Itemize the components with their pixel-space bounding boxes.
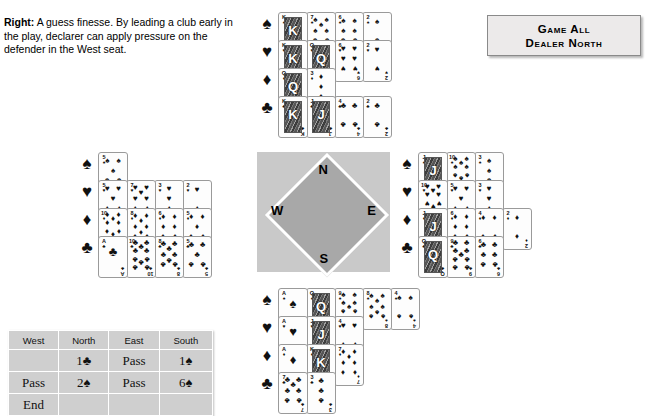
card-pip: ♠ [287, 300, 300, 308]
card-pip: ♣ [339, 102, 347, 110]
dealer-label: Dealer North [526, 36, 603, 50]
card-pip: ♣ [373, 120, 381, 128]
card-pip: ♣ [283, 387, 291, 395]
card-pip: ♦ [317, 73, 325, 81]
card-pip: ♦ [171, 213, 179, 221]
card-pip: ♣ [339, 120, 347, 128]
card-pip: ♥ [351, 322, 359, 330]
spade-suit-icon: ♠ [258, 290, 276, 312]
card-pip: ♦ [103, 219, 111, 227]
playing-card: 9♣9♣♣♣♣♣♣♣♣♣♣ [446, 236, 476, 278]
card-pips: ♣♣♣ [307, 373, 335, 413]
bidding-cell [109, 394, 159, 416]
card-pip: ♣ [143, 247, 151, 255]
card-pip: ♣ [283, 396, 291, 404]
card-pips: ♣♣♣♣♣♣♣♣♣♣ [127, 237, 155, 277]
card-pips: ♦♦ [503, 209, 531, 249]
card-pip: ♣ [463, 263, 471, 271]
bidding-row: End [9, 394, 213, 416]
playing-card: 2♣2♣♣♣ [362, 96, 392, 138]
vulnerability-label: Game All [538, 22, 590, 36]
bidding-row: 1♣Pass1♠ [9, 350, 213, 372]
diamond-suit-icon: ♦ [78, 210, 96, 232]
card-pip: ♠ [311, 27, 319, 35]
court-card-rank: J [419, 219, 447, 234]
card-pip: ♠ [395, 312, 403, 320]
card-pips: ♣♣♣♣♣♣♣♣♣ [447, 237, 475, 277]
card-pip: ♥ [131, 195, 139, 203]
card-pip: ♦ [317, 83, 325, 91]
bidding-cell [9, 350, 59, 372]
card-pip: ♣ [317, 377, 325, 385]
card-pip: ♥ [339, 64, 347, 72]
card-pip: ♣ [317, 387, 325, 395]
card-pip: ♠ [351, 17, 359, 25]
playing-card: 3♣3♣♣♣♣ [306, 372, 336, 414]
bidding-cell: Pass [109, 350, 159, 372]
diamond-suit-icon: ♦ [258, 346, 276, 368]
card-pip: ♥ [373, 64, 381, 72]
card-pips: ♣♣♣♣♣♣♣ [279, 373, 307, 413]
card-pip: ♦ [339, 368, 347, 376]
card-pip: ♥ [435, 191, 443, 199]
card-pip: ♠ [109, 167, 117, 175]
playing-card: 7♦7♦♦♦♦♦♦♦♦ [334, 344, 364, 386]
card-pip: ♥ [339, 55, 347, 63]
card-pip: ♠ [407, 294, 415, 302]
card-pips: ♣♣♣♣ [335, 97, 363, 137]
card-pip: ♣ [491, 251, 499, 259]
compass-diagram: N S W E [257, 152, 390, 272]
card-pip: ♣ [199, 241, 207, 249]
card-pip: ♥ [373, 46, 381, 54]
card-pips: ♥♥ [363, 41, 391, 81]
card-pip: ♦ [171, 223, 179, 231]
card-pip: ♣ [373, 102, 381, 110]
card-pip: ♠ [379, 312, 387, 320]
caption-lead: Right: [4, 16, 34, 28]
card-pip: ♠ [103, 157, 111, 165]
card-pip: ♦ [451, 223, 459, 231]
card-pip: ♣ [295, 387, 303, 395]
playing-card: A♣A♣♣ [98, 236, 128, 278]
vulnerability-dealer-box: Game All Dealer North [487, 15, 641, 56]
card-pip: ♦ [287, 356, 300, 364]
card-pip: ♦ [463, 213, 471, 221]
card-pip: ♦ [187, 213, 195, 221]
heart-suit-icon: ♥ [398, 182, 416, 204]
card-pip: ♦ [115, 219, 123, 227]
card-pip: ♣ [171, 260, 179, 268]
card-pip: ♥ [457, 195, 465, 203]
card-pip: ♥ [351, 64, 359, 72]
heart-suit-icon: ♥ [258, 42, 276, 64]
heart-suit-icon: ♥ [78, 182, 96, 204]
card-pip: ♦ [491, 214, 499, 222]
card-pip: ♣ [295, 396, 303, 404]
card-pip: ♣ [199, 260, 207, 268]
card-pip: ♠ [351, 27, 359, 35]
bidding-cell: 1♣ [59, 350, 109, 372]
card-pip: ♥ [485, 195, 493, 203]
court-card-rank: J [307, 107, 335, 122]
club-suit-icon: ♣ [258, 374, 276, 396]
playing-card: Q♣Q♣Q [418, 236, 448, 278]
diamond-suit-icon: ♦ [398, 210, 416, 232]
card-pip: ♣ [479, 241, 487, 249]
bidding-body: 1♣Pass1♠Pass2♠Pass6♠End [9, 350, 213, 416]
card-pip: ♣ [479, 251, 487, 259]
card-pip: ♥ [287, 328, 300, 336]
spade-suit-icon: ♠ [398, 154, 416, 176]
card-pip: ♥ [463, 185, 471, 193]
caption-body: A guess finesse. By leading a club early… [4, 16, 233, 55]
card-pip: ♣ [131, 247, 139, 255]
card-pip: ♣ [193, 251, 201, 259]
playing-card: 8♣8♣♣♣♣♣♣♣♣♣ [154, 236, 184, 278]
card-pip: ♣ [491, 241, 499, 249]
card-pip: ♥ [485, 185, 493, 193]
card-pip: ♥ [339, 45, 347, 53]
court-card-rank: J [307, 327, 335, 342]
card-pip: ♣ [317, 396, 325, 404]
court-card-rank: K [307, 355, 335, 370]
page-top-trim [0, 0, 647, 5]
compass-north-label: N [319, 162, 328, 177]
card-pip: ♦ [199, 213, 207, 221]
